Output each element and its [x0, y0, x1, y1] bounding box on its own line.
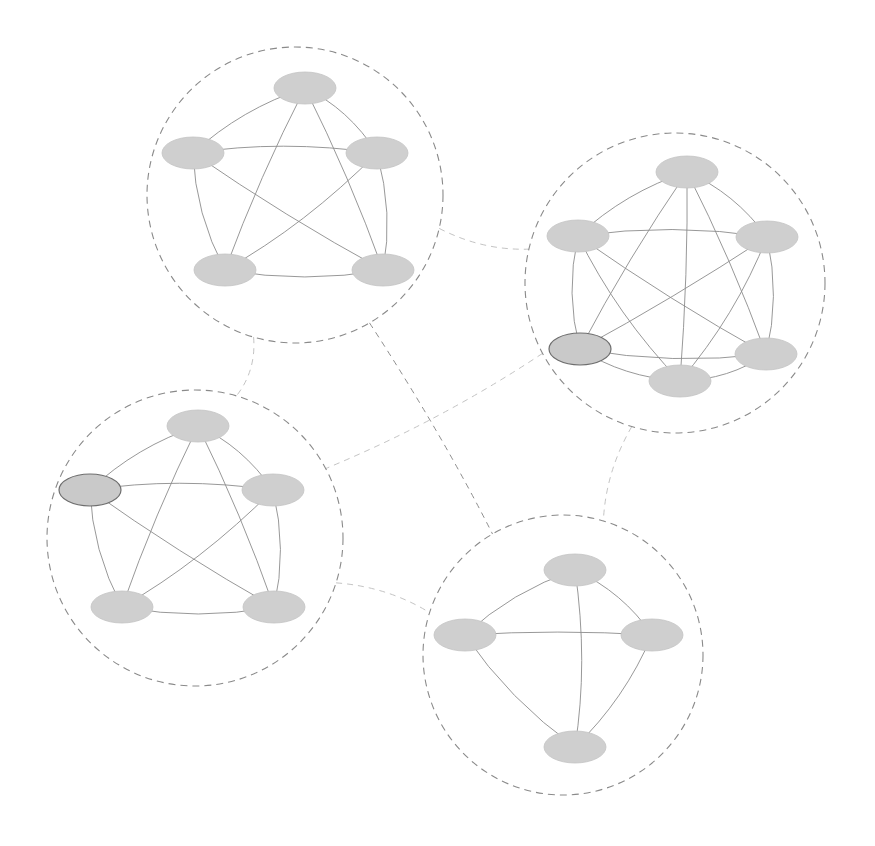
edge-B3-B5: [766, 237, 773, 354]
edge-B1-B6: [680, 172, 687, 381]
network-diagram: [0, 0, 875, 846]
link-A-D: [370, 323, 493, 534]
link-B-D: [603, 427, 631, 521]
node-B4[interactable]: [549, 333, 611, 365]
edge-C3-C5: [273, 490, 280, 607]
node-C1[interactable]: [167, 410, 229, 442]
node-A2[interactable]: [162, 137, 224, 169]
node-A3[interactable]: [346, 137, 408, 169]
node-B2[interactable]: [547, 220, 609, 252]
node-D4[interactable]: [544, 731, 606, 763]
edge-C3-C4: [122, 490, 273, 607]
edge-C1-C5: [198, 426, 274, 607]
node-C2[interactable]: [59, 474, 121, 506]
link-C-D: [336, 583, 430, 613]
edge-C2-C5: [90, 490, 274, 607]
edge-A2-A5: [193, 153, 383, 270]
link-B-C: [326, 353, 543, 468]
cluster-boundaries: [47, 47, 825, 795]
node-C5[interactable]: [243, 591, 305, 623]
node-B6[interactable]: [649, 365, 711, 397]
edge-B1-B4: [580, 172, 687, 349]
node-C4[interactable]: [91, 591, 153, 623]
node-D3[interactable]: [621, 619, 683, 651]
edge-B3-B4: [580, 237, 767, 349]
edge-A1-A5: [305, 88, 383, 270]
node-A4[interactable]: [194, 254, 256, 286]
edge-A3-A5: [377, 153, 387, 270]
edge-C2-C4: [90, 490, 122, 607]
node-D1[interactable]: [544, 554, 606, 586]
node-A5[interactable]: [352, 254, 414, 286]
edge-C1-C4: [122, 426, 198, 607]
node-A1[interactable]: [274, 72, 336, 104]
node-B5[interactable]: [735, 338, 797, 370]
node-D2[interactable]: [434, 619, 496, 651]
edge-D3-D4: [575, 635, 652, 747]
edge-D2-D4: [465, 635, 575, 747]
edge-A1-A4: [225, 88, 305, 270]
link-A-C: [236, 337, 253, 396]
node-C3[interactable]: [242, 474, 304, 506]
edge-B2-B4: [572, 236, 580, 349]
edge-A2-A4: [193, 153, 225, 270]
node-B1[interactable]: [656, 156, 718, 188]
link-A-B: [439, 228, 529, 249]
edge-D1-D4: [575, 570, 582, 747]
node-B3[interactable]: [736, 221, 798, 253]
edge-B2-B5: [578, 236, 766, 354]
